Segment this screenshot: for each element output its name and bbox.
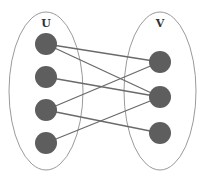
node-u2 <box>35 66 57 88</box>
node-v1 <box>149 51 171 73</box>
set-u-label: U <box>41 17 51 30</box>
edge-u1-v1 <box>46 44 160 62</box>
node-u4 <box>35 132 57 154</box>
nodes-layer <box>35 33 171 154</box>
node-v2 <box>149 86 171 108</box>
edge-u3-v1 <box>46 62 160 110</box>
edges-layer <box>46 44 160 143</box>
set-v-label: V <box>155 17 165 30</box>
node-v3 <box>149 122 171 144</box>
edge-u3-v3 <box>46 110 160 133</box>
labels-layer: UV <box>41 17 165 30</box>
node-u1 <box>35 33 57 55</box>
edge-u1-v2 <box>46 44 160 97</box>
bipartite-graph: UV <box>0 0 203 178</box>
edge-u2-v2 <box>46 77 160 97</box>
node-u3 <box>35 99 57 121</box>
edge-u4-v2 <box>46 97 160 143</box>
